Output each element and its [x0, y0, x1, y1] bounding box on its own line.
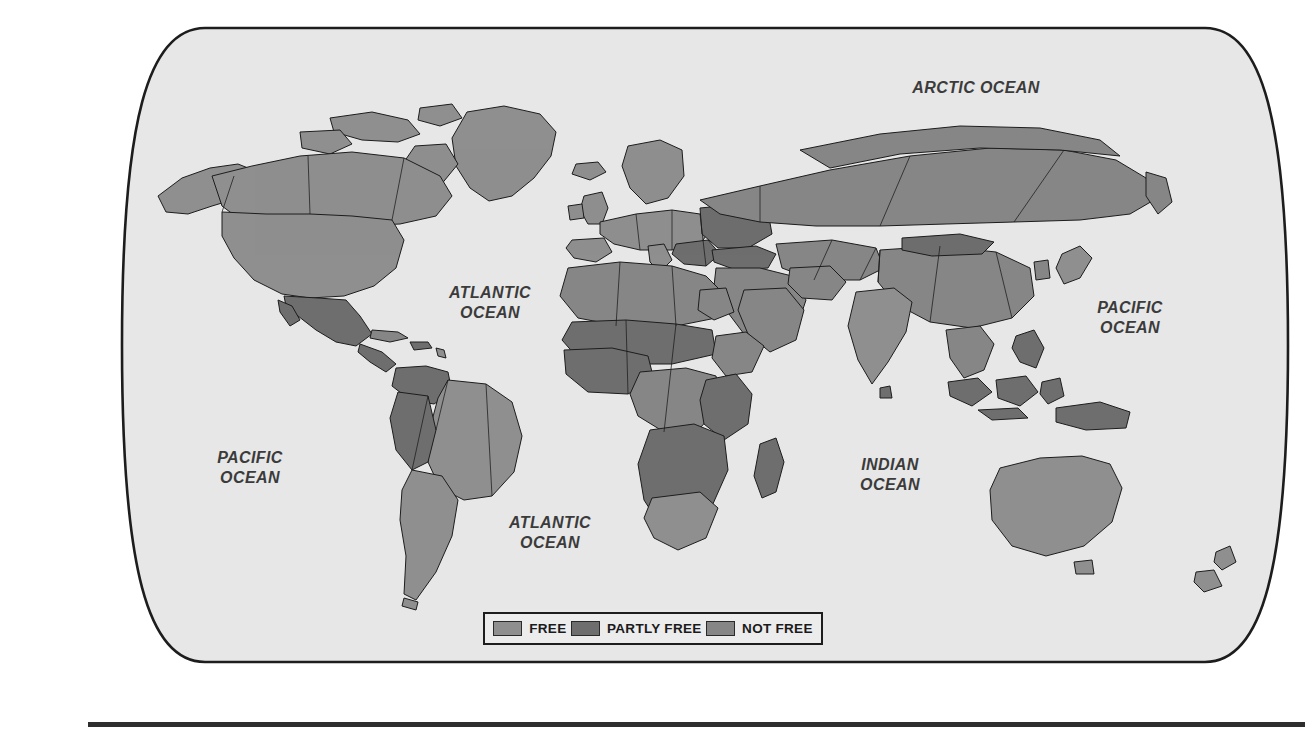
legend-label-free: FREE — [529, 621, 566, 636]
legend-swatch-not-free — [706, 621, 735, 636]
world-freedom-map: ARCTIC OCEAN ATLANTIC OCEAN PACIFIC OCEA… — [0, 0, 1305, 732]
ocean-label-indian: INDIAN OCEAN — [800, 455, 980, 496]
region-hispaniola — [410, 342, 432, 350]
map-legend: FREE PARTLY FREE NOT FREE — [483, 612, 823, 645]
country-sri-lanka — [880, 386, 892, 398]
legend-swatch-partly-free — [571, 621, 600, 636]
ocean-label-atlantic-south: ATLANTIC OCEAN — [460, 513, 640, 554]
legend-label-partly-free: PARTLY FREE — [607, 621, 702, 636]
ocean-label-pacific-west: PACIFIC OCEAN — [160, 448, 340, 489]
ocean-label-arctic: ARCTIC OCEAN — [866, 78, 1086, 98]
ocean-label-pacific-east: PACIFIC OCEAN — [1040, 298, 1220, 339]
country-ireland — [568, 204, 584, 220]
footer-rule — [88, 722, 1305, 727]
legend-label-not-free: NOT FREE — [742, 621, 813, 636]
ocean-label-atlantic-north: ATLANTIC OCEAN — [400, 283, 580, 324]
region-korea — [1034, 260, 1050, 280]
region-tasmania — [1074, 560, 1094, 574]
legend-item-not-free: NOT FREE — [706, 621, 813, 636]
legend-item-partly-free: PARTLY FREE — [571, 621, 702, 636]
legend-item-free: FREE — [493, 621, 566, 636]
legend-swatch-free — [493, 621, 522, 636]
